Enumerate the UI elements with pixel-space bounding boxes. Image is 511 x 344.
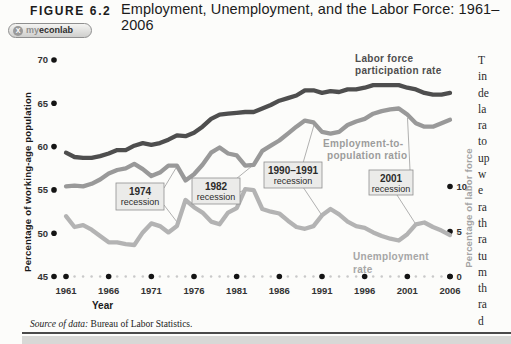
svg-text:70: 70	[37, 54, 48, 65]
svg-text:recession: recession	[121, 197, 160, 207]
svg-text:Employment-to-: Employment-to-	[323, 138, 403, 149]
source-prefix: Source of data:	[30, 319, 88, 329]
svg-text:1981: 1981	[226, 285, 248, 296]
svg-text:1974: 1974	[129, 186, 152, 197]
myeconlab-badge[interactable]: X myeconlab	[8, 23, 92, 38]
page-text-line: in	[478, 68, 511, 84]
svg-text:1971: 1971	[141, 285, 163, 296]
svg-text:1976: 1976	[183, 285, 204, 296]
page-text-line: tu	[478, 248, 511, 264]
page-text-line: ra	[478, 231, 511, 247]
svg-text:1982: 1982	[205, 181, 228, 192]
left-axis: 706560555045Percentage of working-age po…	[22, 54, 57, 281]
svg-text:2001: 2001	[380, 173, 403, 184]
svg-text:65: 65	[37, 98, 48, 109]
page-text-line: de	[478, 85, 511, 101]
page-text-line: ra	[478, 199, 511, 215]
page-text-line: la	[478, 101, 511, 117]
page-text-line: th	[478, 280, 511, 296]
svg-text:55: 55	[37, 184, 48, 195]
svg-text:population ratio: population ratio	[327, 150, 407, 161]
svg-text:rate: rate	[353, 264, 373, 275]
svg-text:1990–1991: 1990–1991	[268, 165, 318, 176]
svg-text:recession: recession	[372, 184, 411, 194]
source-note: Source of data: Bureau of Labor Statisti…	[30, 319, 192, 329]
annotation-1990-1991-recession: 1990–1991recession	[264, 162, 322, 188]
page-text-line: to	[478, 133, 511, 149]
svg-text:1961: 1961	[55, 285, 77, 296]
svg-text:participation rate: participation rate	[355, 65, 442, 76]
svg-text:2006: 2006	[439, 285, 460, 296]
page-text-line: th	[478, 215, 511, 231]
svg-text:Percentage of working-age popu: Percentage of working-age population	[22, 92, 33, 272]
myeconlab-logo-icon: X	[13, 26, 23, 36]
svg-text:5: 5	[457, 226, 463, 237]
annotation-2001-recession: 2001recession	[369, 170, 413, 195]
svg-text:recession: recession	[274, 176, 313, 186]
page-band	[22, 336, 511, 344]
page-text-line: d	[478, 313, 511, 329]
svg-text:Labor force: Labor force	[355, 53, 413, 64]
source-text: Bureau of Labor Statistics.	[91, 319, 193, 329]
page-text-line: up	[478, 150, 511, 166]
figure-title: Employment, Unemployment, and the Labor …	[121, 1, 511, 33]
series-label-epr: Employment-to-population ratio	[323, 138, 407, 161]
svg-text:1986: 1986	[269, 285, 290, 296]
myeconlab-label: myeconlab	[26, 26, 73, 35]
page-text-line: m	[478, 264, 511, 280]
page-text-line: e	[478, 182, 511, 198]
series-label-ur: Unemploymentrate	[353, 251, 429, 275]
page-text-line: ra	[478, 296, 511, 312]
svg-text:0: 0	[457, 271, 462, 282]
figure-label: FIGURE 6.2	[30, 4, 111, 18]
svg-text:1966: 1966	[98, 285, 119, 296]
svg-text:recession: recession	[197, 192, 236, 202]
bottom-rule	[22, 332, 511, 334]
svg-text:Percentage of labor force: Percentage of labor force	[463, 148, 474, 268]
svg-text:Year: Year	[92, 300, 113, 311]
adjacent-page-text: Tindelaratoupwerathratumthrad	[478, 52, 511, 329]
svg-text:Unemployment: Unemployment	[353, 251, 429, 262]
annotation-1982-recession: 1982recession	[192, 178, 240, 204]
svg-text:1996: 1996	[354, 285, 375, 296]
svg-text:60: 60	[37, 141, 48, 152]
svg-text:45: 45	[37, 271, 48, 282]
page-text-line: ra	[478, 117, 511, 133]
series-label-lfpr: Labor forceparticipation rate	[355, 53, 442, 76]
chart-canvas: 706560555045Percentage of working-age po…	[22, 48, 480, 320]
svg-text:50: 50	[37, 228, 48, 239]
annotation-1974-recession: 1974recession	[116, 183, 164, 210]
page-text-line: T	[478, 52, 511, 68]
svg-text:1991: 1991	[311, 285, 333, 296]
right-axis: 0510Percentage of labor force	[447, 148, 474, 282]
page-text-line: w	[478, 166, 511, 182]
svg-text:2001: 2001	[397, 285, 419, 296]
x-axis: 1961196619711976198119861991199620012006…	[55, 274, 460, 311]
